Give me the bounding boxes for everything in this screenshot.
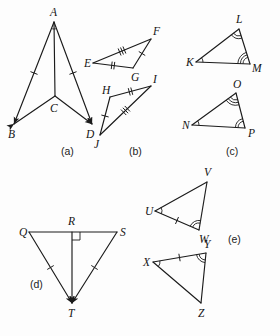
side-KM (196, 62, 250, 64)
vertex-label-P: P (247, 127, 255, 139)
vertex-label-N: N (181, 119, 191, 131)
angle-N (198, 121, 199, 126)
vertex-label-Y: Y (204, 238, 212, 250)
vertex-label-C: C (50, 102, 58, 114)
side-UV (155, 182, 207, 211)
side-KL (196, 29, 239, 62)
vertex-label-Z: Z (198, 307, 205, 319)
angle-W (190, 220, 200, 227)
angle-K (202, 58, 203, 63)
vertex-label-B: B (8, 128, 15, 140)
vertex-label-Q: Q (19, 226, 28, 238)
vertex-label-O: O (233, 78, 242, 90)
angle-U (161, 208, 162, 214)
part-label-d: (d) (30, 278, 43, 290)
segment-ST-ticks (92, 266, 98, 270)
vertex-label-I: I (152, 73, 158, 85)
vertex-label-M: M (251, 62, 263, 74)
part-label-a: (a) (61, 145, 74, 157)
vertex-label-H: H (101, 84, 111, 96)
side-FG-ticks (139, 52, 145, 56)
vertex-label-T: T (68, 307, 76, 319)
side-NO (192, 93, 236, 125)
side-YZ (201, 253, 206, 303)
vertex-label-F: F (152, 25, 161, 37)
angle-X (158, 261, 160, 267)
vertex-label-J: J (94, 138, 100, 150)
side-EG (93, 63, 133, 68)
vertex-label-R: R (67, 215, 75, 227)
segment-QT-ticks (48, 266, 54, 270)
vertex-label-G: G (131, 71, 140, 83)
side-XZ (153, 262, 201, 303)
geometry-figure-sheet: ABCDEFGHIJKLMNOPUVWXYZQRST(a)(b)(c)(d)(e… (0, 0, 280, 336)
right-angle-at-R (72, 232, 80, 240)
side-NP (192, 125, 245, 128)
vertex-label-E: E (83, 57, 91, 69)
angle-Y (197, 254, 206, 262)
vertex-label-K: K (185, 56, 195, 68)
vertex-label-S: S (120, 226, 126, 238)
part-label-b: (b) (129, 145, 142, 157)
vertex-label-V: V (204, 166, 213, 178)
geometry-canvas: ABCDEFGHIJKLMNOPUVWXYZQRST(a)(b)(c)(d)(e… (0, 0, 280, 336)
angle-P (235, 119, 243, 128)
vertex-label-L: L (235, 13, 242, 25)
side-EF-ticks (118, 47, 125, 55)
side-LM (239, 29, 250, 64)
part-label-e: (e) (228, 233, 241, 245)
vertex-label-U: U (145, 205, 154, 217)
segment-AC (54, 22, 55, 96)
vertex-label-X: X (142, 256, 151, 268)
segment-BC (14, 96, 55, 124)
vertex-label-A: A (49, 6, 58, 18)
part-label-c: (c) (226, 145, 238, 157)
side-XY-ticks (179, 254, 180, 261)
